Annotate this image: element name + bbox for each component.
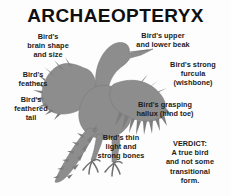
callout-brain-shape: Bird'sbrain shapeand size: [8, 32, 88, 60]
left-foot-shape: [83, 160, 100, 175]
callout-verdict: VERDICT:A true birdand not sometransitio…: [155, 139, 225, 185]
right-foot-shape: [105, 162, 122, 177]
archaeopteryx-infographic: ARCHAEOPTERYX: [0, 0, 231, 196]
callout-furcula: Bird's strongfurcula(wishbone): [158, 60, 228, 88]
callout-hallux: Bird's graspinghallux (hind toe): [122, 100, 208, 118]
callout-bones: Bird's thinlight andstrong bones: [83, 133, 159, 161]
callout-beak: Bird's upperand lower beak: [124, 31, 202, 49]
callout-feathered-tail: Bird'sfeatheredtail: [0, 95, 62, 123]
callout-feathers: Bird'sfeathers: [2, 70, 64, 88]
